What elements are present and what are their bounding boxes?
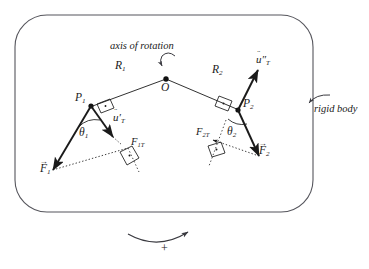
component-label-f2t: F2T [196, 127, 209, 138]
right-angle-dot-f1t [129, 155, 131, 157]
diagram-svg [0, 0, 369, 269]
angle-label-theta2: θ2 [227, 126, 236, 139]
vector-arrow-accent-icon: → [39, 158, 47, 166]
right-angle-dot-f2t [216, 149, 218, 151]
axis-of-rotation-arrow [161, 53, 176, 66]
pivot-label-o: O [161, 82, 169, 94]
positive-direction-arrow [128, 232, 188, 242]
arm-label-r2: R2 [212, 64, 223, 77]
rigid-body-arrow [309, 95, 330, 103]
vector-f1-sub: 1 [47, 168, 51, 176]
vector-label-ut-double-prime-base: ̈u [256, 54, 262, 65]
vector-label-f1-base: →F [40, 163, 47, 175]
positive-direction-sign: + [161, 242, 168, 254]
right-angle-dot-p1 [105, 105, 107, 107]
right-angle-dot-p2 [223, 103, 225, 105]
component-label-f2t-sub: 2T [202, 131, 209, 138]
arm-label-r1-base: R [115, 59, 122, 71]
vector-label-ut-prime-base: ̈u [113, 112, 119, 123]
angle-label-theta1: θ1 [79, 127, 88, 140]
projection-line-f1 [56, 148, 128, 169]
vector-arrow-accent-icon: → [258, 140, 266, 148]
vector-label-f2-base: →F [259, 145, 266, 157]
component-label-f1t: F1T [131, 137, 144, 148]
figure-canvas: axis of rotation rigid body + O R1 R2 P1… [0, 0, 369, 269]
point-label-p2: P2 [243, 98, 254, 111]
vector-ut-double-prime-letter: u [256, 53, 262, 65]
vector-label-f1: →F1 [40, 163, 51, 176]
rigid-body-caption: rigid body [314, 104, 357, 115]
arm-r2 [166, 79, 239, 110]
arm-r1 [90, 79, 166, 107]
angle-label-theta1-sub: 1 [85, 132, 89, 140]
arm-label-r1-sub: 1 [122, 65, 126, 73]
vector-f2-sub: 2 [266, 150, 270, 158]
point-label-p2-base: P [243, 97, 250, 109]
projection-extension-f1 [128, 148, 139, 172]
vector-label-f2: →F2 [259, 145, 270, 158]
vector-ut-prime [91, 106, 113, 137]
arm-label-r1: R1 [115, 60, 126, 73]
tick-f1t [113, 137, 122, 145]
vector-label-ut-prime: ̈u′T [113, 112, 125, 125]
point-label-p1: P1 [75, 92, 86, 105]
vector-f2 [238, 110, 259, 156]
point-label-p1-sub: 1 [82, 97, 86, 105]
angle-label-theta2-sub: 2 [233, 131, 237, 139]
vector-ut-prime-sub: T [121, 117, 125, 124]
arm-label-r2-sub: 2 [219, 69, 223, 77]
axis-of-rotation-caption: axis of rotation [110, 41, 174, 52]
vector-label-ut-double-prime: ̈u″T [256, 54, 270, 67]
point-label-p1-base: P [75, 91, 82, 103]
point-label-p2-sub: 2 [250, 103, 254, 111]
arm-label-r2-base: R [212, 63, 219, 75]
component-label-f1t-sub: 1T [137, 141, 144, 148]
vector-ut-prime-letter: u [113, 111, 119, 123]
vector-ut-double-prime-sub: T [266, 59, 270, 66]
